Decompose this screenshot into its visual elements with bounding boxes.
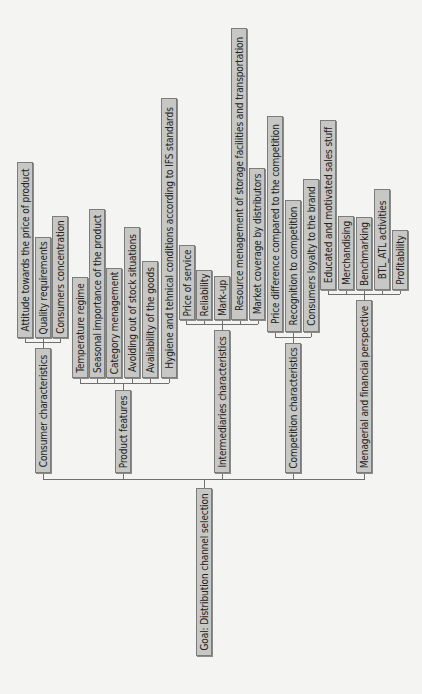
bracket-tick [43,338,44,348]
subcriterion-node: Temperature regime [72,277,88,378]
bracket-tick [400,290,401,294]
subcriterion-node: Consumers loyalty to the brand [303,179,319,332]
bracket-tick [80,378,81,383]
subcriterion-node: Market coverage by distributors [249,168,265,320]
subcriterion-node: Consumers concentration [52,216,68,338]
bracket-tick [258,320,259,324]
bracket-tick [311,332,312,337]
subcriterion-node: Availability of the goods [142,261,158,378]
bracket-tick [186,320,187,324]
subcriterion-node: Educated and motivated sales stuff [320,120,336,290]
bracket-tick [169,378,170,383]
criterion-connector-intermediaries [222,473,223,479]
criterion-connector-product [123,473,124,479]
goal-node: Goal: Distribution channel selection [196,488,212,656]
subcriterion-label: Mark-up [217,280,228,316]
subcriterion-node: Resource menagement of storage facilitie… [231,28,247,320]
subcriterion-node: Recognition to competition [285,200,301,332]
subcriterion-label: Seasonal importance of the product [92,214,103,372]
criterion-consumer-characteristics: Consumer characteristics [35,348,51,473]
bracket-tick [222,320,223,330]
criterion-label: Competition characteristics [288,347,299,468]
bracket-tick [382,290,383,294]
subcriterion-node: Avoiding out of stock situations [124,227,140,378]
subcriterion-node: Price difference compared to the competi… [267,116,283,332]
subcriterion-label: Price of service [182,249,193,316]
subcriterion-label: Consumers loyalty to the brand [306,186,317,325]
subcriterion-label: Recognition to competition [288,207,299,326]
subcriterion-node: Merchandising [338,216,354,290]
product-group-bracket [80,383,169,384]
subcriterion-label: Merchandising [341,221,352,285]
subcriterion-label: Quality requirements [38,241,49,334]
subcriterion-label: Temperature regime [75,283,86,372]
bracket-tick [275,332,276,337]
criterion-label: Product features [118,395,129,468]
subcriterion-node: Hygiene and tehnical conditions accordin… [161,98,177,378]
subcriterion-node: Benchmarking [356,217,372,290]
subcriterion-node: Profitability [392,230,408,290]
criterion-product-features: Product features [115,390,131,473]
criterion-label: Consumer characteristics [38,354,49,466]
subcriterion-label: Hygiene and tehnical conditions accordin… [164,107,175,368]
bracket-tick [204,320,205,324]
subcriterion-label: Price difference compared to the competi… [270,124,281,324]
criterion-managerial-financial-perspective: Menagerial and financial perspective [356,300,372,473]
subcriterion-node: Reliability [196,270,212,320]
subcriterion-node: Quality requirements [35,237,51,338]
criterion-label: Menagerial and financial perspective [359,305,370,468]
criterion-connector-consumer [43,473,44,479]
bracket-tick [364,290,365,300]
bracket-tick [328,290,329,294]
subcriterion-label: Avoiding out of stock situations [127,234,138,372]
subcriterion-node: Mark-up [214,276,230,320]
criterion-label: Intermediaries characteristics [217,336,228,467]
bracket-tick [97,378,98,383]
subcriterion-node: Seasonal importance of the product [89,209,105,378]
bracket-tick [293,332,294,343]
goal-label: Goal: Distribution channel selection [199,493,210,650]
subcriterion-label: Profitability [395,235,406,285]
bracket-tick [150,378,151,383]
criterion-intermediaries-characteristics: Intermediaries characteristics [214,330,230,473]
subcriterion-label: Availability of the goods [145,267,156,373]
criterion-connector-managerial [364,473,365,479]
subcriterion-label: Category menagement [109,272,120,374]
bracket-tick [114,378,115,383]
bracket-tick [240,320,241,324]
bracket-tick [132,378,133,383]
subcriterion-label: Attitude towards the price of product [20,169,31,332]
bracket-tick [346,290,347,294]
bracket-tick [123,383,124,390]
subcriterion-label: BTL_ATL activities [377,200,388,279]
subcriterion-label: Reliability [199,274,210,317]
bracket-tick [60,338,61,342]
subcriterion-label: Market coverage by distributors [252,174,263,315]
subcriterion-label: Consumers concentration [55,220,66,333]
subcriterion-label: Resource menagement of storage facilitie… [234,37,245,311]
goal-connector-stem [204,479,205,488]
subcriterion-node: Price of service [179,245,195,320]
criterion-connector-competition [293,473,294,479]
bracket-tick [25,338,26,342]
subcriterion-node: Attitude towards the price of product [17,162,33,338]
subcriterion-node: Category menagement [106,268,122,378]
criterion-competition-characteristics: Competition characteristics [285,343,301,473]
subcriterion-label: Benchmarking [359,222,370,286]
subcriterion-label: Educated and motivated sales stuff [323,127,334,283]
subcriterion-node: BTL_ATL activities [374,189,390,290]
